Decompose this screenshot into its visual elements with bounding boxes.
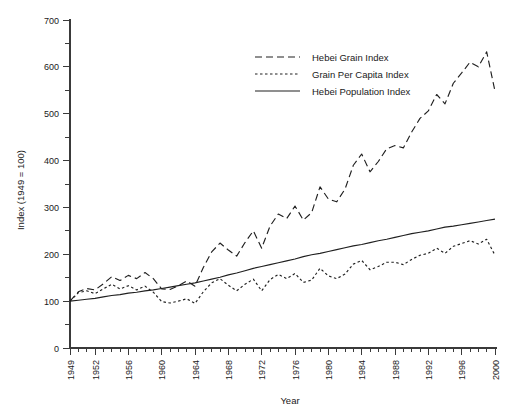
y-tick-label: 400 bbox=[44, 156, 59, 166]
x-tick-label: 1996 bbox=[457, 360, 467, 380]
y-axis-title: Index (1949 = 100) bbox=[15, 150, 26, 230]
legend-label-3: Hebei Population Index bbox=[312, 86, 410, 97]
x-tick-label: 1988 bbox=[391, 360, 401, 380]
legend-label-1: Hebei Grain Index bbox=[312, 52, 389, 63]
x-tick-label: 1992 bbox=[424, 360, 434, 380]
series-layer bbox=[70, 52, 495, 304]
x-tick-label: 1968 bbox=[224, 360, 234, 380]
x-tick-label: 2000 bbox=[491, 360, 501, 380]
x-tick-label: 1956 bbox=[124, 360, 134, 380]
legend-label-2: Grain Per Capita Index bbox=[312, 69, 409, 80]
x-tick-label: 1980 bbox=[324, 360, 334, 380]
y-tick-label: 600 bbox=[44, 62, 59, 72]
chart-legend: Hebei Grain IndexGrain Per Capita IndexH… bbox=[255, 52, 410, 97]
x-tick-label: 1949 bbox=[66, 360, 76, 380]
x-tick-label: 1960 bbox=[157, 360, 167, 380]
y-tick-label: 200 bbox=[44, 250, 59, 260]
y-tick-label: 100 bbox=[44, 297, 59, 307]
y-tick-label: 500 bbox=[44, 109, 59, 119]
series-line-2 bbox=[70, 239, 495, 303]
series-line-3 bbox=[70, 219, 495, 301]
y-tick-label: 300 bbox=[44, 203, 59, 213]
x-tick-label: 1972 bbox=[257, 360, 267, 380]
y-tick-label: 0 bbox=[54, 344, 59, 354]
line-chart: 0100200300400500600700 19491952195619601… bbox=[0, 0, 522, 418]
x-axis: 1949195219561960196419681972197619801984… bbox=[66, 348, 501, 380]
series-line-1 bbox=[70, 52, 495, 301]
x-tick-label: 1952 bbox=[91, 360, 101, 380]
y-axis: 0100200300400500600700 bbox=[44, 16, 70, 354]
x-tick-label: 1984 bbox=[357, 360, 367, 380]
x-axis-title: Year bbox=[280, 395, 299, 406]
x-tick-label: 1964 bbox=[191, 360, 201, 380]
y-tick-label: 700 bbox=[44, 16, 59, 26]
x-tick-label: 1976 bbox=[291, 360, 301, 380]
chart-container: 0100200300400500600700 19491952195619601… bbox=[0, 0, 522, 418]
